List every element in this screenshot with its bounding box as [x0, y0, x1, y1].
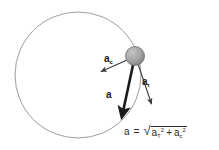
equation-term2-subscript: c	[180, 133, 183, 139]
equation-term1-exponent: 2	[161, 127, 164, 133]
equation-equals-sign: =	[134, 126, 140, 137]
acceleration-magnitude-equation: a = √ aT2+ac2	[124, 126, 187, 140]
vector-label-at-subscript: t	[148, 82, 150, 88]
square-root-icon: √	[143, 126, 150, 135]
equation-radical: √ aT2+ac2	[143, 126, 186, 140]
equation-radicand: aT2+ac2	[151, 126, 187, 140]
equation-operator: +	[166, 127, 172, 138]
vector-label-at: at	[142, 72, 150, 88]
equation-term1-subscript: T	[157, 133, 161, 139]
vector-label-a: a	[106, 85, 112, 101]
vector-label-ac-subscript: c	[110, 59, 113, 65]
equation-term2-base: a	[174, 127, 180, 138]
equation-lhs: a	[124, 126, 130, 137]
vector-label-at-base: a	[142, 76, 148, 87]
circular-path-outline	[15, 12, 141, 138]
circular-motion-acceleration-figure: ac at a a = √ aT2+ac2	[0, 0, 219, 150]
vector-label-a-base: a	[106, 89, 112, 100]
particle-ball	[126, 47, 145, 66]
equation-term2-exponent: 2	[183, 127, 186, 133]
vector-label-ac: ac	[104, 49, 113, 65]
vector-label-ac-base: a	[104, 53, 110, 64]
